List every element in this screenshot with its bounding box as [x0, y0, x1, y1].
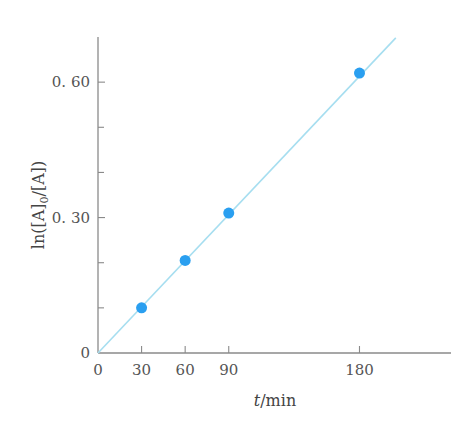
- data-point: [354, 68, 365, 79]
- x-tick-label: 60: [176, 361, 195, 379]
- x-tick-label: 30: [132, 361, 151, 379]
- x-tick-label: 180: [345, 361, 374, 379]
- data-point: [223, 208, 234, 219]
- tick-labels: 030609018000. 300. 60: [52, 73, 374, 379]
- x-axis-title: t/min: [254, 391, 296, 410]
- y-tick-label: 0: [80, 344, 90, 362]
- chart: 030609018000. 300. 60 t/min ln([A]0/[A]): [0, 0, 476, 427]
- axes: [98, 37, 451, 353]
- y-axis-title: ln([A]0/[A]): [29, 161, 51, 249]
- x-tick-label: 0: [93, 361, 103, 379]
- y-tick-label: 0. 30: [52, 209, 90, 227]
- y-tick-label: 0. 60: [52, 73, 90, 91]
- x-tick-label: 90: [219, 361, 238, 379]
- data-point: [136, 302, 147, 313]
- data-point: [180, 255, 191, 266]
